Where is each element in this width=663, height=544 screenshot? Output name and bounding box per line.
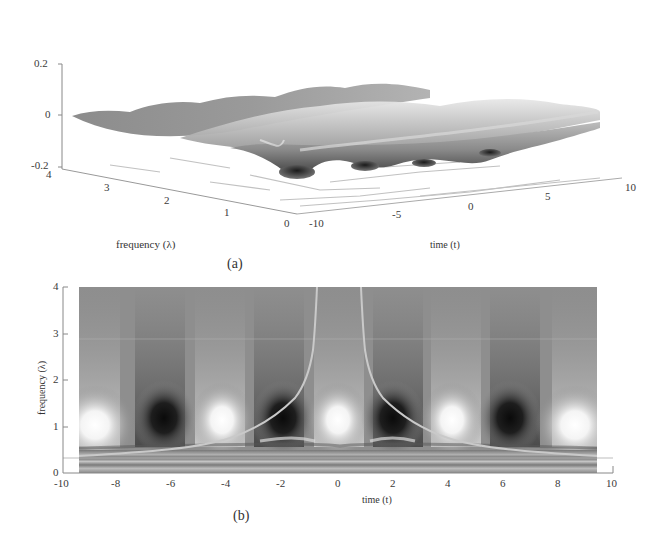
x-tick-label: -8 — [111, 477, 120, 489]
frequency-axis-label: frequency (λ) — [36, 361, 47, 415]
x-tick-label: 8 — [555, 477, 561, 489]
x-tick-label: -4 — [221, 477, 230, 489]
x-tick-label: 0 — [335, 477, 341, 489]
x-tick-label: 4 — [445, 477, 451, 489]
time-axis-label: time (t) — [362, 494, 392, 505]
y-tick-label: 2 — [53, 373, 59, 385]
y-tick-label: 1 — [53, 420, 59, 432]
x-tick-label: -6 — [166, 477, 175, 489]
y-tick-label: 4 — [53, 280, 59, 292]
heatmap-graphic — [0, 0, 663, 544]
x-tick-label: 10 — [606, 477, 617, 489]
y-tick-label: 3 — [53, 327, 59, 339]
panel-label-b: (b) — [233, 508, 249, 524]
x-tick-label: -10 — [54, 477, 69, 489]
x-tick-label: -2 — [276, 477, 285, 489]
x-tick-label: 6 — [500, 477, 506, 489]
x-tick-label: 2 — [390, 477, 396, 489]
